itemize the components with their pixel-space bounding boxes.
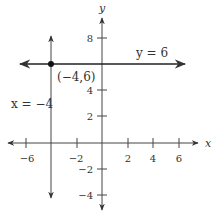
y-tick-labels: 8 4 2 −2 −4 <box>78 33 93 201</box>
svg-text:2: 2 <box>125 153 131 164</box>
intersection-point-label: (−4,6) <box>57 70 96 84</box>
svg-text:−2: −2 <box>69 153 84 164</box>
svg-text:6: 6 <box>176 153 182 164</box>
x-tick-labels: −6 −2 2 4 6 <box>20 153 183 164</box>
x-axis-label: x <box>205 137 212 150</box>
intersection-point <box>48 61 54 67</box>
line-y-equals-6-label: y = 6 <box>135 46 168 60</box>
svg-text:−4: −4 <box>78 190 93 201</box>
svg-text:8: 8 <box>87 33 93 44</box>
y-axis-label: y <box>98 2 106 15</box>
line-x-equals-neg4-label: x = −4 <box>11 97 54 111</box>
svg-text:4: 4 <box>150 153 156 164</box>
svg-text:2: 2 <box>87 111 93 122</box>
svg-text:4: 4 <box>87 85 93 96</box>
coordinate-plane: x y −6 −2 2 4 6 8 4 2 −2 −4 y = 6 x = −4… <box>0 0 216 216</box>
svg-text:−2: −2 <box>78 164 93 175</box>
svg-text:−6: −6 <box>20 153 35 164</box>
